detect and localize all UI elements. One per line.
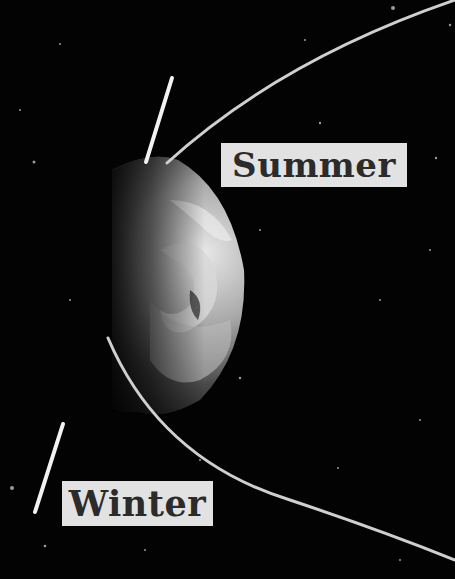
orbit-path (167, 0, 455, 163)
summer-label: Summer (221, 143, 407, 187)
winter-axis-line (35, 424, 63, 512)
winter-label: Winter (62, 481, 213, 526)
summer-axis-line (146, 78, 172, 162)
space-diagram: Summer Winter (0, 0, 455, 579)
